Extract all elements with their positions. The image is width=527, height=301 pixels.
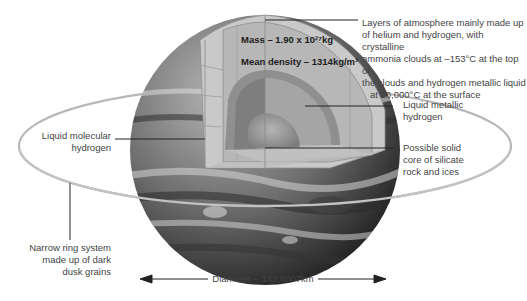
atmosphere-line-1: Layers of atmosphere mainly made up xyxy=(362,17,527,29)
ring-line-3: dusk grains xyxy=(10,266,111,278)
liquid-molecular-line-2: hydrogen xyxy=(20,142,111,154)
ring-line-1: Narrow ring system xyxy=(10,242,111,254)
liquid-molecular-line-1: Liquid molecular xyxy=(20,130,111,142)
mean-density-label: Mean density – 1314kg/m³ xyxy=(241,56,358,68)
core-line-1: Possible solid xyxy=(403,142,464,154)
arrow-right-icon xyxy=(374,275,386,283)
liquid-molecular-label: Liquid molecular hydrogen xyxy=(20,130,111,154)
core-label: Possible solid core of silicate rock and… xyxy=(403,142,464,178)
core-line-2: core of silicate xyxy=(403,154,464,166)
ring-label: Narrow ring system made up of dark dusk … xyxy=(10,242,111,278)
atmosphere-line-2: of helium and hydrogen, with crystalline xyxy=(362,29,527,53)
liquid-metallic-line-1: Liquid metallic xyxy=(403,99,463,111)
liquid-metallic-label: Liquid metallic hydrogen xyxy=(403,99,463,123)
liquid-metallic-line-2: hydrogen xyxy=(403,111,463,123)
diameter-label: Diameter – 142,8007km xyxy=(208,273,318,285)
atmosphere-line-4: the clouds and hydrogen metallic liquid xyxy=(362,77,527,89)
atmosphere-line-3: ammonia clouds at –153°C at the top of xyxy=(362,53,527,77)
core-line-3: rock and ices xyxy=(403,166,464,178)
ring-line-2: made up of dark xyxy=(10,254,111,266)
atmosphere-label: Layers of atmosphere mainly made up of h… xyxy=(362,17,527,101)
mass-label: Mass – 1.90 x 10²⁷kg xyxy=(241,34,333,46)
arrow-left-icon xyxy=(140,275,152,283)
